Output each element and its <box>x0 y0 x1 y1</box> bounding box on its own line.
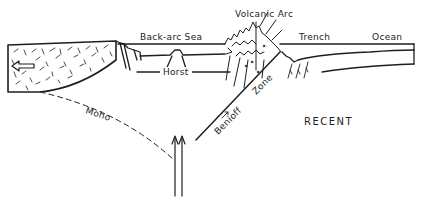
period-label: RECENT <box>304 116 353 127</box>
continental-block <box>8 41 116 92</box>
moho-label: Moho <box>84 105 112 123</box>
subduction-cross-section-diagram: Back-arc Sea Volcanic Arc Trench Ocean H… <box>0 0 423 205</box>
volcanic-arc <box>225 12 282 88</box>
ocean-label: Ocean <box>372 32 402 42</box>
volcanic-arc-label: Volcanic Arc <box>235 9 293 19</box>
upwelling-arrows <box>172 136 185 196</box>
step-faults <box>116 41 141 70</box>
moho-line <box>40 92 174 160</box>
motion-arrow-left-icon <box>12 61 34 71</box>
trench-label: Trench <box>298 32 330 42</box>
back-arc-sea-label: Back-arc Sea <box>140 32 202 42</box>
oceanic-plate <box>280 44 414 78</box>
horst-label: Horst <box>163 67 189 77</box>
benioff-label: Benioff <box>212 105 243 136</box>
